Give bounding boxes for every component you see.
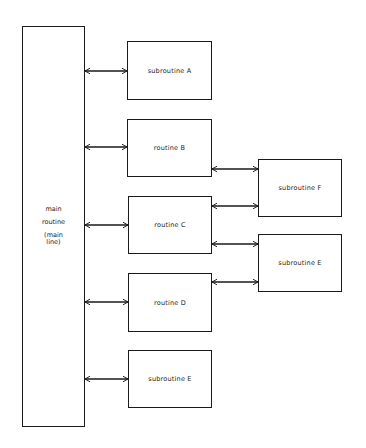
subroutine-f-box: subroutine F bbox=[258, 159, 342, 217]
routine-d-box: routine D bbox=[128, 273, 212, 332]
subroutine-e-bottom-box: subroutine E bbox=[128, 350, 212, 408]
subroutine-f-label: subroutine F bbox=[279, 184, 322, 192]
routine-d-label: routine D bbox=[154, 299, 186, 307]
subroutine-e-right-label: subroutine E bbox=[278, 259, 321, 267]
routine-b-box: routine B bbox=[127, 119, 212, 177]
main-label-line-4: line) bbox=[23, 239, 84, 246]
subroutine-e-right-box: subroutine E bbox=[258, 234, 342, 292]
main-label-line-2: routine bbox=[23, 219, 84, 226]
main-label-line-1: main bbox=[23, 206, 84, 213]
main-routine-box: main routine (main line) bbox=[22, 26, 85, 427]
routine-b-label: routine B bbox=[154, 144, 185, 152]
subroutine-a-label: subroutine A bbox=[148, 67, 192, 75]
routine-c-label: routine C bbox=[154, 221, 186, 229]
subroutine-a-box: subroutine A bbox=[127, 41, 212, 100]
routine-c-box: routine C bbox=[128, 196, 212, 254]
subroutine-e-bottom-label: subroutine E bbox=[148, 375, 191, 383]
